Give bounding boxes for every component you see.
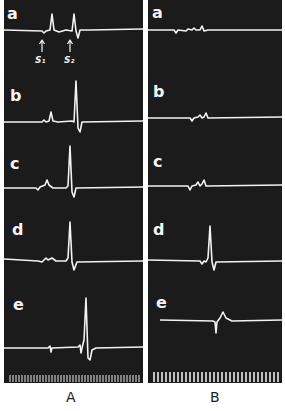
stimulus-label-s2: S₂: [64, 56, 74, 65]
row-label-e: e: [156, 295, 167, 311]
oscilloscope-figure: a S₁ S₂ b c d e a b c d e A: [0, 0, 285, 411]
row-label-a: a: [152, 5, 163, 21]
panel-b: a b c d e: [148, 0, 282, 383]
row-label-a: a: [7, 6, 18, 22]
row-label-b: b: [10, 88, 21, 104]
row-label-e: e: [13, 297, 24, 313]
panel-b-traces: [148, 0, 282, 383]
panel-label-a: A: [66, 390, 76, 404]
row-label-b: b: [153, 84, 164, 100]
stimulus-label-s1: S₁: [35, 56, 45, 65]
row-label-c: c: [153, 154, 162, 170]
panel-a: a S₁ S₂ b c d e: [4, 0, 143, 383]
row-label-d: d: [12, 222, 23, 238]
panel-label-b: B: [210, 390, 220, 404]
row-label-c: c: [10, 156, 19, 172]
row-label-d: d: [153, 222, 164, 238]
